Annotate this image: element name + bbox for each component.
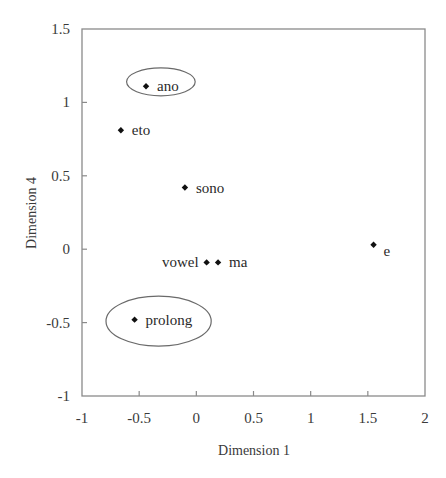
data-points: anoetosonovowelmaeprolong — [118, 78, 391, 327]
point-label: ma — [229, 254, 248, 270]
point-label: vowel — [162, 254, 199, 270]
scatter-chart: -1-0.500.511.52-1-0.500.511.5 anoetosono… — [0, 0, 446, 478]
point-prolong: prolong — [131, 312, 192, 328]
point-ma: ma — [215, 254, 248, 270]
diamond-marker-icon — [370, 242, 376, 248]
cluster-ellipses — [106, 68, 211, 346]
diamond-marker-icon — [215, 259, 221, 265]
diamond-marker-icon — [182, 184, 188, 190]
diamond-marker-icon — [203, 259, 209, 265]
y-tick-label: 0.5 — [51, 168, 70, 184]
point-label: e — [384, 243, 391, 259]
chart-canvas: -1-0.500.511.52-1-0.500.511.5 anoetosono… — [0, 0, 446, 478]
diamond-marker-icon — [118, 127, 124, 133]
y-tick-label: -1 — [58, 388, 71, 404]
axis-ticks: -1-0.500.511.52-1-0.500.511.5 — [46, 21, 429, 426]
x-tick-label: 1.5 — [358, 410, 377, 426]
x-tick-label: 0 — [193, 410, 201, 426]
point-vowel: vowel — [162, 254, 210, 270]
diamond-marker-icon — [143, 83, 149, 89]
plot-frame — [82, 29, 425, 396]
point-label: sono — [196, 180, 224, 196]
point-e: e — [370, 242, 390, 259]
x-tick-label: 2 — [421, 410, 429, 426]
y-tick-label: 1 — [63, 94, 71, 110]
x-tick-label: 1 — [307, 410, 315, 426]
x-tick-label: -1 — [76, 410, 89, 426]
x-axis-title: Dimension 1 — [218, 443, 290, 458]
point-sono: sono — [182, 180, 225, 196]
point-eto: eto — [118, 122, 151, 138]
plot-border — [82, 29, 425, 396]
diamond-marker-icon — [131, 316, 137, 322]
y-tick-label: -0.5 — [46, 315, 70, 331]
x-tick-label: -0.5 — [127, 410, 151, 426]
y-axis-title: Dimension 4 — [24, 177, 39, 249]
x-tick-label: 0.5 — [244, 410, 263, 426]
point-label: eto — [132, 122, 150, 138]
point-label: prolong — [146, 312, 193, 328]
point-label: ano — [157, 78, 179, 94]
point-ano: ano — [143, 78, 179, 94]
y-tick-label: 0 — [63, 241, 71, 257]
y-tick-label: 1.5 — [51, 21, 70, 37]
